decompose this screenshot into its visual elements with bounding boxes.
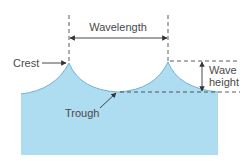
wave-height-label-line1: Wave [209, 64, 237, 76]
wave-height-label-line2: height [209, 76, 239, 88]
trough-label: Trough [65, 107, 99, 119]
wave-diagram: Wavelength Crest Wave height Trough [0, 0, 252, 161]
crest-label: Crest [13, 57, 39, 69]
wavelength-label: Wavelength [89, 21, 147, 33]
water-body [21, 62, 218, 155]
